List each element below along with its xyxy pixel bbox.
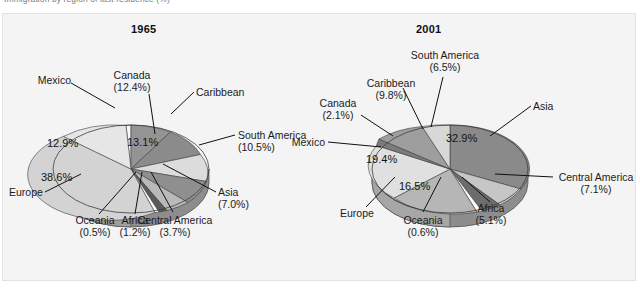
label-asia-2001: Asia [533, 100, 553, 112]
figure-caption: Immigration by region of last residence … [4, 0, 170, 4]
pct-mexico-1965: 12.9% [47, 137, 78, 149]
pct-mexico-2001: 19.4% [366, 153, 397, 165]
label-canada-1965: Canada (12.4%) [99, 69, 165, 93]
pct-caribbean-1965: 13.1% [127, 136, 158, 148]
label-mexico-1965: Mexico [11, 74, 71, 86]
chart-title-1965: 1965 [131, 23, 156, 35]
label-europe-2001: Europe [340, 207, 374, 219]
label-south-america-2001: South America (6.5%) [398, 49, 492, 73]
pct-europe-1965: 38.6% [41, 171, 72, 183]
label-oceania-1965: Oceania (0.5%) [67, 214, 123, 238]
label-oceania-2001: Oceania (0.6%) [395, 214, 451, 238]
figure-root: Immigration by region of last residence … [0, 0, 640, 295]
chart-title-2001: 2001 [416, 23, 441, 35]
label-europe-1965: Europe [9, 186, 43, 198]
chart-panel: 1965 [2, 13, 636, 281]
pct-asia-2001: 32.9% [446, 132, 477, 144]
label-caribbean-2001: Caribbean (9.8%) [359, 77, 423, 101]
pct-europe-2001: 16.5% [399, 180, 430, 192]
label-africa-2001: Africa (5.1%) [467, 202, 515, 226]
label-mexico-2001: Mexico [275, 136, 325, 148]
label-asia-1965: Asia (7.0%) [218, 186, 249, 210]
label-caribbean-1965: Caribbean [196, 86, 244, 98]
label-central-america-2001: Central America (7.1%) [554, 171, 638, 195]
pie-2001 [344, 109, 564, 244]
label-canada-2001: Canada (2.1%) [310, 97, 366, 121]
